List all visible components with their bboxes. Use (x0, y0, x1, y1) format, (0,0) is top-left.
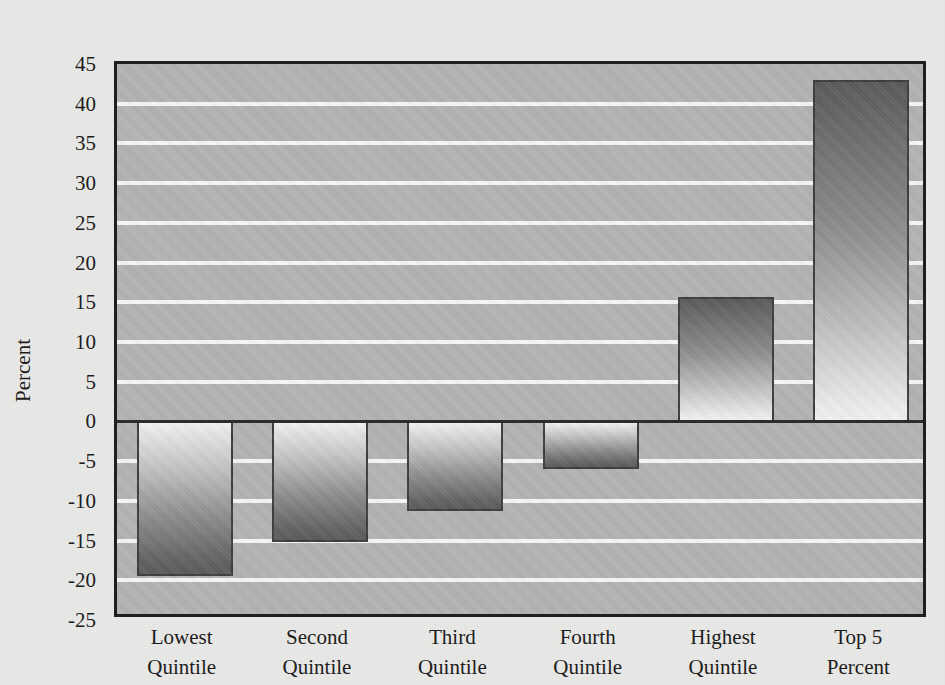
x-axis-tick-label-line: Quintile (655, 652, 790, 682)
x-axis-tick-label-line: Percent (791, 652, 926, 682)
x-axis-tick-label: HighestQuintile (655, 622, 790, 682)
bar (272, 421, 368, 542)
x-axis-tick-label-line: Top 5 (791, 622, 926, 652)
bar (813, 80, 909, 422)
y-axis-tick-label: 15 (75, 292, 96, 313)
gridline (117, 340, 923, 344)
bar (678, 297, 774, 422)
x-axis-tick-label-line: Lowest (114, 622, 249, 652)
zero-baseline (117, 420, 923, 423)
x-axis-tick-labels: LowestQuintileSecondQuintileThirdQuintil… (114, 622, 926, 684)
gridline (117, 539, 923, 543)
x-axis-tick-label: ThirdQuintile (385, 622, 520, 682)
plot-texture-overlay (117, 64, 923, 614)
x-axis-tick-label-line: Third (385, 622, 520, 652)
bar (543, 421, 639, 469)
y-axis-tick-label: 40 (75, 93, 96, 114)
bar (407, 421, 503, 511)
y-axis-tick-labels: 454035302520151050-5-10-15-20-25 (0, 61, 104, 617)
x-axis-tick-label: Top 5Percent (791, 622, 926, 682)
y-axis-tick-label: 20 (75, 252, 96, 273)
bar (137, 421, 233, 576)
x-axis-tick-label: FourthQuintile (520, 622, 655, 682)
y-axis-tick-label: 10 (75, 332, 96, 353)
gridline (117, 261, 923, 265)
x-axis-tick-label: SecondQuintile (249, 622, 384, 682)
y-axis-tick-label: 35 (75, 133, 96, 154)
plot-area (114, 61, 926, 617)
y-axis-tick-label: 25 (75, 212, 96, 233)
y-axis-tick-label: 0 (86, 411, 97, 432)
gridline (117, 181, 923, 185)
gridline (117, 300, 923, 304)
bar-chart-figure: Percent 454035302520151050-5-10-15-20-25… (0, 0, 945, 685)
x-axis-tick-label-line: Highest (655, 622, 790, 652)
gridline (117, 380, 923, 384)
x-axis-tick-label-line: Quintile (520, 652, 655, 682)
gridline (117, 499, 923, 503)
x-axis-tick-label: LowestQuintile (114, 622, 249, 682)
gridline (117, 221, 923, 225)
x-axis-tick-label-line: Fourth (520, 622, 655, 652)
gridline (117, 578, 923, 582)
y-axis-tick-label: -25 (68, 610, 96, 631)
gridline (117, 141, 923, 145)
y-axis-tick-label: 5 (86, 371, 97, 392)
x-axis-tick-label-line: Quintile (249, 652, 384, 682)
gridline (117, 102, 923, 106)
x-axis-tick-label-line: Second (249, 622, 384, 652)
y-axis-tick-label: -10 (68, 490, 96, 511)
y-axis-tick-label: 30 (75, 173, 96, 194)
y-axis-tick-label: -15 (68, 530, 96, 551)
y-axis-tick-label: -20 (68, 570, 96, 591)
x-axis-tick-label-line: Quintile (114, 652, 249, 682)
gridline (117, 459, 923, 463)
y-axis-tick-label: -5 (79, 451, 97, 472)
x-axis-tick-label-line: Quintile (385, 652, 520, 682)
y-axis-tick-label: 45 (75, 54, 96, 75)
